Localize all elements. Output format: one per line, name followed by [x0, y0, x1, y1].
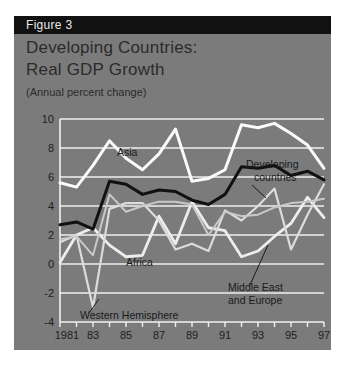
x-tick-label-1983: 83 — [87, 329, 99, 341]
y-tick-label-0: 0 — [48, 258, 54, 270]
y-tick-label--2: -2 — [44, 287, 54, 299]
annotation-middle-east-2: and Europe — [228, 294, 282, 306]
y-tick-label-8: 8 — [48, 142, 54, 154]
x-tick-label-1981: 1981 — [55, 329, 79, 341]
annotation-africa: Africa — [126, 256, 153, 268]
x-axis-tick-labels: 19818385878991939597 — [55, 329, 330, 341]
x-tick-label-1987: 87 — [153, 329, 165, 341]
x-tick-label-1995: 95 — [285, 329, 297, 341]
x-tick-label-1989: 89 — [186, 329, 198, 341]
data-series — [60, 123, 324, 307]
y-tick-label-2: 2 — [48, 229, 54, 241]
x-tick-label-1993: 93 — [252, 329, 264, 341]
figure-panel: Figure 3 Developing Countries: Real GDP … — [14, 16, 331, 350]
annotation-western-hemisphere: Western Hemisphere — [80, 309, 179, 321]
x-tick-label-1991: 91 — [219, 329, 231, 341]
y-tick-label-6: 6 — [48, 171, 54, 183]
x-tick-label-1997: 97 — [318, 329, 330, 341]
annotation-middle-east-1: Middle East — [228, 281, 283, 293]
y-axis-tick-labels: -4-20246810 — [42, 113, 54, 328]
y-tick-label--4: -4 — [44, 316, 54, 328]
y-tick-label-4: 4 — [48, 200, 54, 212]
leader-line-developing-countries — [252, 185, 266, 198]
y-tick-label-10: 10 — [42, 113, 54, 125]
gdp-growth-line-chart: -4-20246810 19818385878991939597 AsiaDev… — [14, 16, 331, 350]
chart-plot-area: -4-20246810 19818385878991939597 AsiaDev… — [14, 16, 331, 350]
annotation-developing-countries-1: Developing — [246, 158, 299, 170]
annotation-developing-countries-2: countries — [254, 171, 297, 183]
annotation-asia: Asia — [117, 146, 138, 158]
x-tick-label-1985: 85 — [120, 329, 132, 341]
